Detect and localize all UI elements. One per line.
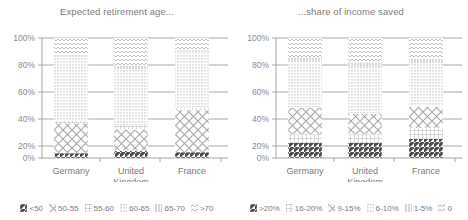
x-axis-categories-left: Germany United Kingdom France bbox=[52, 166, 206, 182]
legend-label-lt50: <50 bbox=[29, 204, 43, 213]
legend-swatch-6-10pct bbox=[367, 204, 374, 212]
plot-area-right: 100% 80% 60% 40% 20% 0% bbox=[234, 22, 468, 182]
cat-label-germany: Germany bbox=[52, 166, 90, 176]
legend-swatch-55-60 bbox=[85, 204, 92, 212]
legend-item-16-20pct[interactable]: 16-20% bbox=[286, 204, 323, 213]
legend-left: <50 50-55 55-60 60-65 65-70 >70 bbox=[0, 196, 234, 220]
chart-figure: Expected retirement age... bbox=[0, 0, 468, 220]
legend-swatch-1-5pct bbox=[405, 204, 412, 212]
legend-label-55-60: 55-60 bbox=[94, 204, 114, 213]
chart-panel-expected-retirement-age: Expected retirement age... bbox=[0, 0, 234, 196]
legend-item-65-70[interactable]: 65-70 bbox=[155, 204, 184, 213]
ytick-20: 20% bbox=[18, 141, 35, 151]
legend-swatch-65-70 bbox=[155, 204, 162, 212]
legend-label-zero: 0 bbox=[447, 204, 451, 213]
x-axis-categories-right: Germany United Kingdom France bbox=[286, 166, 440, 182]
bar-stack-france-left bbox=[175, 38, 209, 158]
y-axis-ticklabels-left: 100% 80% 60% 40% 20% 0% bbox=[13, 33, 35, 163]
ytick-20: 20% bbox=[252, 141, 269, 151]
legend-label-6-10pct: 6-10% bbox=[376, 204, 399, 213]
ytick-100: 100% bbox=[247, 33, 269, 43]
legend-swatch-16-20pct bbox=[286, 204, 293, 212]
bar-stack-france-right bbox=[409, 38, 443, 158]
legend-label-50-55: 50-55 bbox=[58, 204, 78, 213]
legend-right: >20% 16-20% 9-15% 6-10% 1-5% 0 bbox=[234, 196, 468, 220]
legend-label-65-70: 65-70 bbox=[164, 204, 184, 213]
chart-panel-share-of-income-saved: ...share of income saved bbox=[234, 0, 468, 196]
legend-label-9-15pct: 9-15% bbox=[337, 204, 360, 213]
plot-area-left: 100% 80% 60% 40% 20% 0% bbox=[0, 22, 234, 182]
legend-item-6-10pct[interactable]: 6-10% bbox=[367, 204, 399, 213]
chart-title-right: ...share of income saved bbox=[234, 6, 468, 17]
cat-label-france: France bbox=[178, 166, 206, 176]
legend-item-1-5pct[interactable]: 1-5% bbox=[405, 204, 433, 213]
legend-swatch-gt70 bbox=[191, 204, 198, 212]
legend-swatch-50-55 bbox=[49, 204, 56, 212]
ytick-80: 80% bbox=[252, 60, 269, 70]
cat-label-uk-line2: Kingdom bbox=[113, 177, 149, 182]
ytick-60: 60% bbox=[252, 87, 269, 97]
bar-stack-germany-left bbox=[54, 38, 88, 158]
bar-stack-united-kingdom-right bbox=[348, 38, 382, 158]
bar-stack-united-kingdom-left bbox=[114, 38, 148, 158]
bar-stack-germany-right bbox=[288, 38, 322, 158]
ytick-40: 40% bbox=[252, 114, 269, 124]
plot-svg-right: 100% 80% 60% 40% 20% 0% bbox=[234, 22, 468, 182]
legend-label-1-5pct: 1-5% bbox=[414, 204, 433, 213]
legend-swatch-gt20pct bbox=[250, 204, 257, 212]
legend-item-lt50[interactable]: <50 bbox=[20, 204, 43, 213]
ytick-100: 100% bbox=[13, 33, 35, 43]
legend-swatch-lt50 bbox=[20, 204, 27, 212]
legend-item-gt70[interactable]: >70 bbox=[191, 204, 214, 213]
ytick-80: 80% bbox=[18, 60, 35, 70]
y-axis-ticklabels-right: 100% 80% 60% 40% 20% 0% bbox=[247, 33, 269, 163]
legend-swatch-9-15pct bbox=[328, 204, 335, 212]
legend-label-gt20pct: >20% bbox=[259, 204, 280, 213]
cat-label-uk-line1: United bbox=[352, 166, 378, 176]
legend-item-zero[interactable]: 0 bbox=[438, 204, 451, 213]
cat-label-uk-line2: Kingdom bbox=[347, 177, 383, 182]
legend-item-50-55[interactable]: 50-55 bbox=[49, 204, 78, 213]
legend-label-16-20pct: 16-20% bbox=[295, 204, 323, 213]
legend-label-60-65: 60-65 bbox=[129, 204, 149, 213]
ytick-40: 40% bbox=[18, 114, 35, 124]
chart-title-left: Expected retirement age... bbox=[0, 6, 234, 17]
legend-item-60-65[interactable]: 60-65 bbox=[120, 204, 149, 213]
legend-swatch-60-65 bbox=[120, 204, 127, 212]
plot-svg-left: 100% 80% 60% 40% 20% 0% bbox=[0, 22, 234, 182]
cat-label-uk-line1: United bbox=[118, 166, 144, 176]
legend-swatch-zero bbox=[438, 204, 445, 212]
legend-label-gt70: >70 bbox=[200, 204, 214, 213]
legend-item-gt20pct[interactable]: >20% bbox=[250, 204, 280, 213]
cat-label-france: France bbox=[412, 166, 440, 176]
ytick-0: 0% bbox=[257, 153, 270, 163]
cat-label-germany: Germany bbox=[286, 166, 324, 176]
ytick-60: 60% bbox=[18, 87, 35, 97]
ytick-0: 0% bbox=[23, 153, 36, 163]
legend-item-9-15pct[interactable]: 9-15% bbox=[328, 204, 360, 213]
legend-item-55-60[interactable]: 55-60 bbox=[85, 204, 114, 213]
